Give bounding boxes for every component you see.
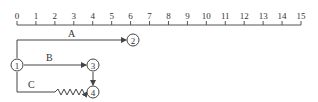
node-2: 2: [127, 34, 139, 46]
activity-b-label: B: [46, 52, 53, 63]
time-axis: 0123456789101112131415: [15, 11, 306, 25]
tick-label: 4: [90, 11, 95, 21]
tick-label: 12: [240, 11, 249, 21]
activity-c-label: C: [28, 79, 35, 90]
svg-text:1: 1: [15, 61, 20, 71]
tick-label: 5: [109, 11, 114, 21]
tick-label: 13: [259, 11, 269, 21]
node-1: 1: [11, 59, 23, 71]
tick-label: 14: [278, 11, 288, 21]
activity-b: B: [24, 52, 86, 65]
free-float-wave: [55, 89, 87, 95]
tick-label: 6: [128, 11, 133, 21]
activity-a-label: A: [68, 28, 76, 39]
node-3: 3: [87, 59, 99, 71]
svg-text:3: 3: [91, 61, 96, 71]
tick-label: 15: [297, 11, 307, 21]
svg-text:4: 4: [91, 88, 96, 98]
tick-label: 0: [15, 11, 20, 21]
svg-text:2: 2: [131, 36, 136, 46]
tick-label: 1: [34, 11, 39, 21]
tick-label: 10: [202, 11, 212, 21]
activity-a: A: [17, 28, 126, 58]
tick-label: 7: [147, 11, 152, 21]
activity-c: C: [17, 72, 87, 95]
tick-label: 9: [185, 11, 190, 21]
node-4: 4: [87, 86, 99, 98]
tick-label: 11: [221, 11, 230, 21]
tick-label: 8: [166, 11, 171, 21]
tick-label: 3: [72, 11, 77, 21]
time-scaled-network-diagram: 0123456789101112131415 A B C 1 2 3 4: [0, 0, 318, 102]
tick-label: 2: [53, 11, 58, 21]
